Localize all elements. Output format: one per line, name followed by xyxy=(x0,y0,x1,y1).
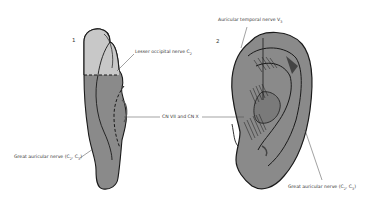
ear-innervation-diagram xyxy=(0,0,372,204)
panel-number-2: 2 xyxy=(216,39,220,45)
label-auricular-temporal-nerve: Auricular temporal nerve V3 xyxy=(218,18,282,24)
label-great-auricular-nerve-right: Great auricular nerve (C2, C3) xyxy=(288,185,356,191)
posterior-ear-figure xyxy=(84,29,127,189)
label-great-auricular-nerve-left: Great auricular nerve (C2, C3) xyxy=(14,155,82,161)
label-cn-vii-and-cn-x: CN VII and CN X xyxy=(162,115,199,120)
label-lesser-occipital-nerve: Lesser occipital nerve C2 xyxy=(135,50,192,56)
panel-number-1: 1 xyxy=(72,38,76,44)
lateral-ear-figure xyxy=(232,32,312,188)
